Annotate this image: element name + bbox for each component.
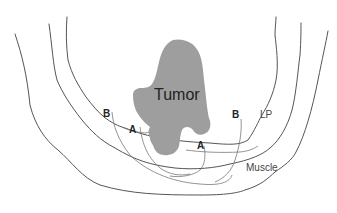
label-lp: LP <box>260 109 273 120</box>
label-b-right: B <box>232 109 239 120</box>
tumor-base-line-left <box>122 127 151 133</box>
penetration-line-b-right <box>215 119 241 182</box>
tumor-label: Tumor <box>154 86 200 103</box>
label-b-left: B <box>103 108 110 119</box>
label-a-left: A <box>129 124 136 135</box>
label-a-right: A <box>197 140 204 151</box>
tumor-layers-diagram: Tumor B A A B LP Muscle <box>0 0 337 213</box>
label-muscle: Muscle <box>246 162 278 173</box>
